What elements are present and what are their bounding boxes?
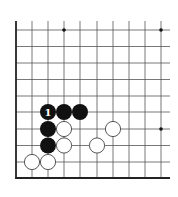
grid-lines: [15, 21, 170, 179]
black-stone: [72, 104, 88, 120]
white-stone: [56, 121, 71, 136]
white-stone: [89, 138, 104, 153]
stones: 1: [24, 104, 120, 170]
star-point-icon: [62, 28, 66, 32]
move-number-label: 1: [45, 107, 52, 118]
white-stone: [56, 138, 71, 153]
white-stone: [24, 154, 39, 169]
star-point-icon: [159, 28, 163, 32]
black-stone: [56, 104, 72, 120]
black-stone: [40, 138, 56, 154]
black-stone: [40, 121, 56, 137]
star-point-icon: [159, 127, 163, 131]
go-board: 1: [0, 0, 178, 197]
black-stone: 1: [40, 104, 56, 120]
white-stone: [40, 154, 55, 169]
white-stone: [105, 121, 120, 136]
